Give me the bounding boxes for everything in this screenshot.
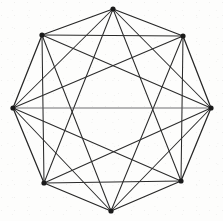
graph-edge [13, 9, 113, 108]
graph-vertex [108, 208, 113, 213]
graph-vertex [110, 6, 115, 11]
graph-vertex [208, 105, 213, 110]
graph-vertex [10, 105, 15, 110]
graph-edge [42, 35, 44, 183]
graph-vertex [178, 178, 183, 183]
graph-vertex [39, 32, 44, 37]
graph-edge [113, 9, 183, 36]
octagon-chord-diagram [0, 0, 223, 221]
figure-canvas [0, 0, 223, 221]
graph-edge [42, 9, 113, 35]
graph-edge [113, 9, 181, 181]
graph-edge [44, 181, 181, 183]
graph-vertex [180, 33, 185, 38]
graph-edge [42, 35, 183, 36]
graph-edge [42, 35, 211, 108]
graph-edge [44, 183, 111, 211]
graph-edge [113, 9, 211, 108]
graph-vertex [41, 180, 46, 185]
graph-edge [181, 36, 183, 181]
graph-edge [42, 35, 111, 211]
graph-edge [111, 108, 211, 211]
